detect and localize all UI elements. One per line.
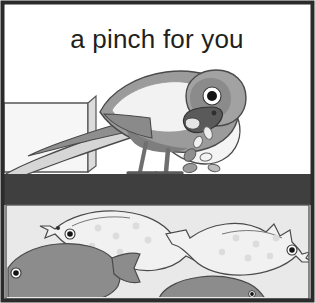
fish-bottom-middle-pupil xyxy=(250,292,254,296)
tank-water xyxy=(6,205,312,302)
caption-title: a pinch for you xyxy=(70,24,244,54)
comic-illustration: a pinch for you xyxy=(0,0,315,303)
tank-rim xyxy=(4,174,311,205)
bird-eye xyxy=(203,87,221,105)
bird-nostril xyxy=(212,111,217,116)
bird-leg-right xyxy=(166,150,168,172)
caption-band: a pinch for you xyxy=(70,24,244,54)
bird-eye-pupil xyxy=(207,91,217,101)
bird-beak-lower xyxy=(185,118,200,129)
fish-upper-left-nostril xyxy=(56,226,60,230)
fish-lower-left-pupil xyxy=(13,270,19,276)
comic-panel: a pinch for you xyxy=(0,0,315,303)
fish-upper-left-pupil xyxy=(67,231,73,237)
fish-right-pupil xyxy=(289,247,295,253)
